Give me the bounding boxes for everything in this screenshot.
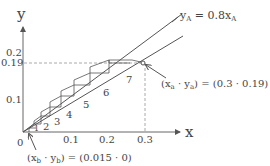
lower-line [23, 36, 183, 132]
y-tick-label: 0.1 [6, 94, 22, 105]
stage-number: 4 [66, 109, 72, 120]
x-tick-label: 0.1 [63, 134, 79, 145]
point-a-marker [141, 61, 145, 65]
point-a-label: (xa · ya) = (0.3 · 0.19) [161, 78, 268, 91]
stage-number: 5 [83, 99, 89, 110]
x-tick-label: 0.2 [99, 134, 115, 145]
stage-number: 6 [103, 87, 109, 98]
staircase-diagram: y x 0 0.1 0.2 0.3 0.2 0.19 0.1 1 2 3 4 5… [0, 0, 270, 166]
origin-label: 0 [17, 137, 23, 148]
x-tick-label: 0.3 [137, 134, 153, 145]
point-b-label: (xb · yb) = (0.015 · 0) [27, 152, 132, 165]
upper-line-label: yA = 0.8xA [179, 9, 237, 23]
y-axis-label: y [16, 5, 26, 23]
x-axis-label: x [185, 123, 194, 141]
point-a-arrow [146, 65, 166, 78]
diagram-canvas: y x 0 0.1 0.2 0.3 0.2 0.19 0.1 1 2 3 4 5… [0, 0, 270, 166]
y-tick-label: 0.19 [1, 57, 23, 68]
stage-number: 7 [126, 74, 132, 85]
stage-number: 2 [43, 121, 49, 132]
stage-number: 1 [34, 124, 39, 133]
point-b-arrow [29, 134, 36, 150]
upper-line-leader [172, 17, 178, 22]
stage-number: 3 [54, 116, 60, 127]
